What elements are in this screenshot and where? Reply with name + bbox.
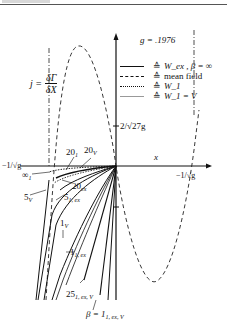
x-axis-label: x bbox=[154, 153, 158, 162]
curve-label-1-1-ex: 11, ex bbox=[70, 248, 86, 258]
legend-label: W_ex , β = ∞ bbox=[164, 61, 212, 71]
legend-solid-swatch bbox=[120, 66, 144, 67]
legend-label: W_1 = V bbox=[164, 91, 197, 101]
legend-item: ≙ W_1 bbox=[120, 81, 212, 91]
leader-5-v bbox=[30, 190, 46, 195]
x-tick-left-label: −1/√g bbox=[2, 162, 21, 170]
curve-label-5-1-ex: 51, ex bbox=[64, 193, 80, 203]
legend-item: ≙ W_ex , β = ∞ bbox=[120, 61, 212, 71]
x-tick-right-label: −1/√g bbox=[176, 172, 195, 180]
curve-label-20-v: 20V bbox=[84, 146, 97, 156]
curve-steep bbox=[108, 166, 116, 300]
y-tick-label: 2/√27g bbox=[120, 122, 145, 131]
y-axis-label: j = δΓ δX bbox=[30, 72, 57, 95]
y-axis-label-denominator: δX bbox=[46, 84, 57, 95]
legend-dotted-swatch bbox=[120, 86, 144, 87]
legend-symbol: ≙ bbox=[150, 91, 164, 101]
legend-label: W_1 bbox=[164, 81, 181, 91]
y-axis-label-numerator: δΓ bbox=[45, 72, 57, 84]
curve-label-20-ex: 20ex bbox=[72, 182, 86, 192]
legend-item: ≙ mean field bbox=[120, 71, 212, 81]
legend-symbol: ≙ bbox=[150, 81, 164, 91]
y-axis-arrow-icon bbox=[114, 33, 119, 40]
phase-diagram-plot bbox=[0, 0, 227, 333]
curve-label-beta-1-1-ex-v: β = 11, ex, V bbox=[86, 310, 124, 320]
legend-symbol: ≙ bbox=[150, 71, 164, 81]
y-axis-label-lhs: j = bbox=[30, 78, 42, 89]
legend: ≙ W_ex , β = ∞ ≙ mean field ≙ W_1 ≙ W_1 … bbox=[120, 61, 212, 101]
curve-label-25-1-ex-v: 251, ex, V bbox=[66, 290, 93, 300]
leader-25 bbox=[80, 279, 84, 283]
legend-dashdot-swatch bbox=[120, 96, 144, 97]
legend-symbol: ≙ bbox=[150, 61, 164, 71]
legend-dashed-swatch bbox=[120, 76, 144, 77]
curve-label-20-1: 201 bbox=[66, 148, 78, 158]
parameter-label: g = .1976 bbox=[140, 36, 175, 45]
legend-item: ≙ W_1 = V bbox=[120, 91, 212, 101]
leader-inf-1 bbox=[32, 172, 50, 174]
curve-label-5-v: 5V bbox=[24, 193, 32, 203]
curve-beta-1-1-ex-v bbox=[100, 166, 116, 295]
curve-label-1-v: 1V bbox=[60, 219, 68, 229]
x-axis-arrow-icon bbox=[206, 164, 212, 169]
leader-20-ex bbox=[62, 180, 72, 183]
legend-label: mean field bbox=[164, 71, 202, 81]
curve-label-inf-1: ∞1 bbox=[22, 171, 31, 181]
